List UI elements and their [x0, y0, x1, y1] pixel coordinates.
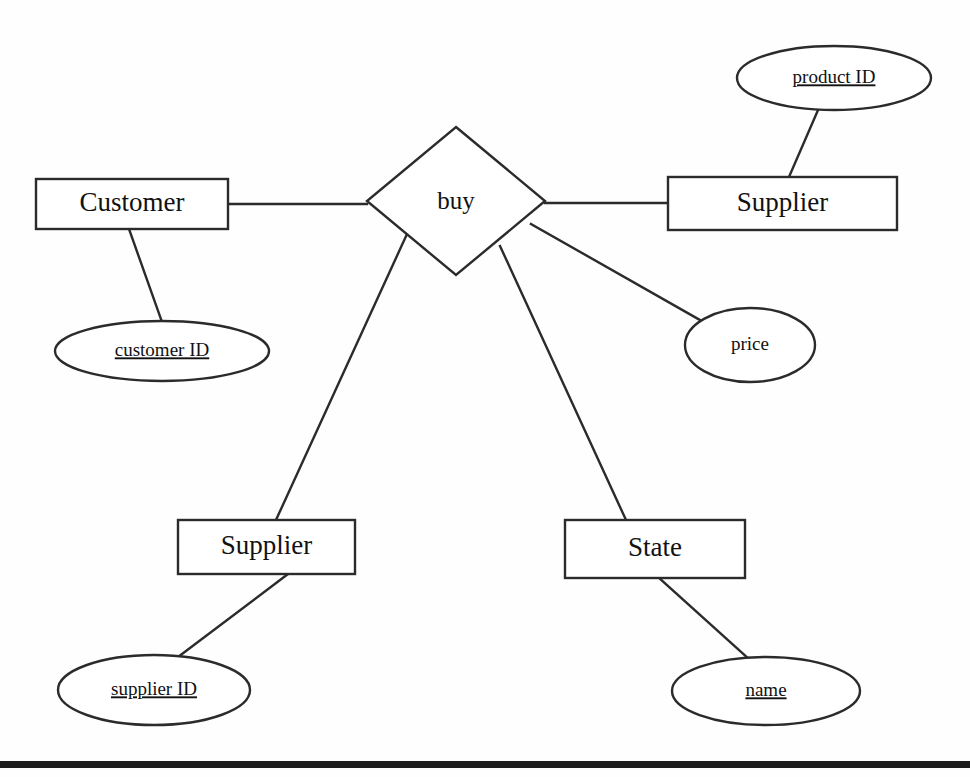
connector-buy-to-price	[531, 224, 700, 320]
attribute-price-label: price	[731, 333, 769, 354]
connector-supplier-bottom-to-supplier-id	[178, 574, 288, 657]
connector-buy-to-supplier-bottom	[276, 234, 407, 520]
entity-supplier-top-label: Supplier	[737, 187, 829, 217]
attribute-customer-id[interactable]: customer ID	[55, 321, 269, 381]
attribute-name[interactable]: name	[672, 657, 860, 725]
attribute-name-label: name	[745, 679, 786, 700]
entity-customer-label: Customer	[80, 187, 185, 217]
attribute-product-id[interactable]: product ID	[737, 46, 931, 110]
attribute-product-id-label: product ID	[793, 66, 876, 87]
relationship-buy[interactable]: buy	[367, 127, 545, 275]
entity-supplier-bottom-label: Supplier	[221, 530, 313, 560]
er-diagram-svg: Customer Supplier Supplier State buy cus…	[0, 0, 970, 777]
connector-supplier-top-to-product-id	[789, 110, 818, 177]
er-diagram-canvas: Customer Supplier Supplier State buy cus…	[0, 0, 970, 777]
entity-state-label: State	[628, 532, 682, 562]
relationship-buy-label: buy	[437, 187, 475, 214]
bottom-divider-rule	[0, 761, 970, 768]
attribute-customer-id-label: customer ID	[115, 339, 209, 360]
attribute-supplier-id[interactable]: supplier ID	[58, 655, 250, 725]
connector-buy-to-state	[500, 246, 626, 520]
entity-state[interactable]: State	[565, 520, 745, 578]
connector-customer-to-customer-id	[129, 229, 162, 322]
attribute-price[interactable]: price	[685, 308, 815, 382]
entity-supplier-top[interactable]: Supplier	[668, 177, 897, 230]
attribute-supplier-id-label: supplier ID	[111, 678, 197, 699]
entity-customer[interactable]: Customer	[36, 179, 228, 229]
connector-state-to-name	[659, 578, 749, 659]
entity-supplier-bottom[interactable]: Supplier	[178, 520, 355, 574]
